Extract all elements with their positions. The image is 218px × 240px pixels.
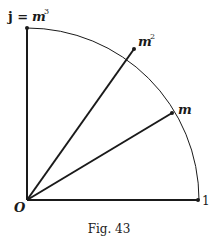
label-origin: O <box>14 200 26 215</box>
figure-caption: Fig. 43 <box>88 222 131 236</box>
point-m <box>170 111 174 115</box>
label-j-prefix: j = <box>7 9 28 24</box>
radius-to-m2 <box>27 49 134 200</box>
label-m2-sup: 2 <box>150 32 155 41</box>
radius-to-m <box>27 113 172 200</box>
point-one <box>196 198 200 202</box>
point-m2 <box>132 47 136 51</box>
label-m: m <box>178 102 192 117</box>
label-j-sup: 3 <box>44 7 49 16</box>
point-j <box>25 26 29 30</box>
figure-43-diagram: j = m 3 m 2 m O 1 Fig. 43 <box>0 0 218 240</box>
label-one: 1 <box>202 194 210 208</box>
